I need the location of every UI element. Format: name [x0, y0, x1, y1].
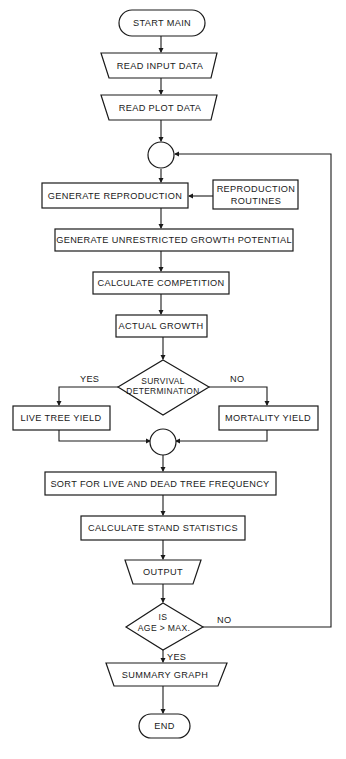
calculate-competition-label: CALCULATE COMPETITION	[97, 278, 224, 288]
start-terminator: START MAIN	[119, 10, 205, 36]
age-yes-label: YES	[167, 652, 186, 662]
survival-label-2: DETERMINATION	[126, 386, 199, 396]
actual-growth-node: ACTUAL GROWTH	[116, 315, 207, 337]
merge-connector	[150, 429, 176, 455]
stand-statistics-label: CALCULATE STAND STATISTICS	[88, 523, 238, 533]
stand-statistics-node: CALCULATE STAND STATISTICS	[81, 516, 245, 540]
reproduction-routines-label-2: ROUTINES	[231, 196, 281, 206]
generate-reproduction-label: GENERATE REPRODUCTION	[48, 191, 182, 201]
summary-graph-label: SUMMARY GRAPH	[122, 670, 208, 680]
end-terminator: END	[139, 714, 190, 738]
summary-graph-node: SUMMARY GRAPH	[106, 663, 227, 686]
output-label: OUTPUT	[143, 567, 183, 577]
read-plot-label: READ PLOT DATA	[119, 103, 202, 113]
reproduction-routines-node: REPRODUCTION ROUTINES	[213, 180, 298, 209]
age-decision-label-2: AGE > MAX.	[138, 623, 190, 633]
actual-growth-label: ACTUAL GROWTH	[119, 321, 204, 331]
read-input-data-node: READ INPUT DATA	[101, 53, 217, 78]
survival-label-1: SURVIVAL	[141, 376, 184, 386]
start-label: START MAIN	[133, 18, 191, 28]
mortality-yield-label: MORTALITY YIELD	[225, 413, 311, 423]
survival-decision: SURVIVAL DETERMINATION	[118, 360, 209, 415]
generate-reproduction-node: GENERATE REPRODUCTION	[42, 183, 188, 208]
live-tree-yield-label: LIVE TREE YIELD	[21, 413, 102, 423]
end-label: END	[154, 721, 174, 731]
age-decision: IS AGE > MAX.	[126, 603, 203, 650]
mortality-yield-node: MORTALITY YIELD	[219, 406, 318, 430]
survival-no-label: NO	[230, 374, 244, 384]
sort-frequency-label: SORT FOR LIVE AND DEAD TREE FREQUENCY	[50, 479, 269, 489]
age-decision-label-1: IS	[159, 612, 168, 622]
read-input-label: READ INPUT DATA	[117, 61, 204, 71]
age-no-label: NO	[217, 615, 231, 625]
reproduction-routines-label-1: REPRODUCTION	[217, 184, 296, 194]
live-tree-yield-node: LIVE TREE YIELD	[13, 406, 110, 430]
calculate-competition-node: CALCULATE COMPETITION	[93, 272, 229, 294]
read-plot-data-node: READ PLOT DATA	[101, 95, 217, 120]
generate-growth-node: GENERATE UNRESTRICTED GROWTH POTENTIAL	[55, 229, 293, 251]
output-node: OUTPUT	[125, 560, 201, 584]
loop-connector	[148, 142, 174, 168]
sort-frequency-node: SORT FOR LIVE AND DEAD TREE FREQUENCY	[45, 472, 276, 495]
survival-yes-label: YES	[80, 374, 99, 384]
flowchart: START MAIN READ INPUT DATA READ PLOT DAT…	[0, 0, 346, 759]
generate-growth-label: GENERATE UNRESTRICTED GROWTH POTENTIAL	[56, 235, 292, 245]
